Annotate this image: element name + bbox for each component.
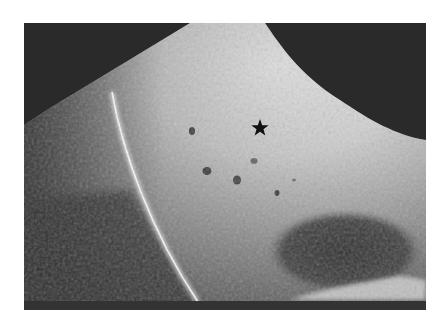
tissue-sector: [24, 23, 426, 310]
ultrasound-image: [0, 0, 448, 322]
bottom-strip: [24, 301, 426, 310]
